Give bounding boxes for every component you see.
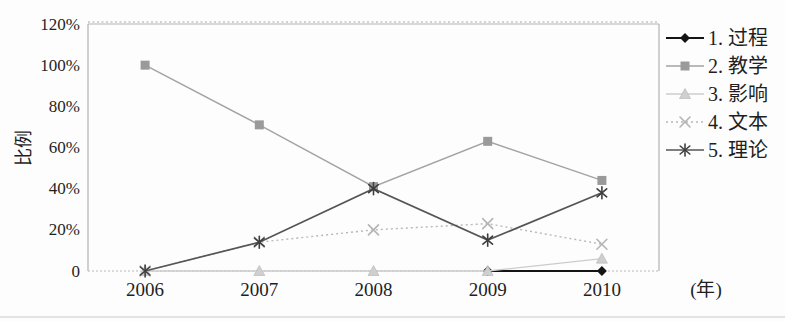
y-axis-title: 比例 [14, 130, 34, 166]
legend-label: 4. 文本 [708, 111, 768, 133]
scanned-line-chart-figure: 020%40%60%80%100%120%比例20062007200820092… [0, 0, 785, 321]
x-axis-unit-label: (年) [690, 279, 722, 301]
square-marker [141, 61, 150, 70]
legend-item-3: 3. 影响 [666, 83, 768, 105]
legend-label: 2. 教学 [708, 55, 768, 77]
legend-label: 5. 理论 [708, 139, 768, 161]
legend-label: 3. 影响 [708, 83, 768, 105]
y-tick-label: 0 [72, 262, 81, 281]
x-tick-label: 2008 [355, 279, 393, 300]
y-tick-label: 20% [49, 220, 80, 239]
x-axis-tick-labels: 20062007200820092010(年) [126, 279, 722, 301]
x-tick-label: 2010 [583, 279, 621, 300]
legend-item-4: 4. 文本 [666, 111, 768, 133]
series-2-square [141, 61, 607, 191]
legend-item-1: 1. 过程 [666, 27, 768, 49]
series-2-line [145, 65, 602, 186]
legend-item-5: 5. 理论 [666, 139, 768, 161]
series-3-triangle [140, 253, 608, 275]
y-tick-label: 120% [40, 15, 80, 34]
y-axis-tick-labels: 020%40%60%80%100%120% [40, 15, 80, 281]
legend-item-2: 2. 教学 [666, 55, 768, 77]
x-tick-label: 2007 [240, 279, 278, 300]
x-tick-label: 2006 [126, 279, 164, 300]
plot-area-frame [88, 22, 659, 271]
square-marker [255, 120, 264, 129]
legend: 1. 过程2. 教学3. 影响4. 文本5. 理论 [666, 27, 768, 161]
y-axis-title-group: 比例 [14, 130, 34, 166]
legend-label: 1. 过程 [708, 27, 768, 49]
x-tick-label: 2009 [469, 279, 507, 300]
square-marker [681, 62, 690, 71]
y-tick-label: 60% [49, 138, 80, 157]
diamond-marker [597, 266, 607, 276]
y-tick-label: 40% [49, 179, 80, 198]
triangle-marker [596, 253, 607, 263]
y-tick-label: 100% [40, 56, 80, 75]
y-tick-label: 80% [49, 97, 80, 116]
square-marker [483, 137, 492, 146]
line-chart: 020%40%60%80%100%120%比例20062007200820092… [0, 0, 785, 321]
diamond-marker [680, 33, 690, 43]
series-1-diamond [483, 266, 607, 276]
square-marker [597, 176, 606, 185]
